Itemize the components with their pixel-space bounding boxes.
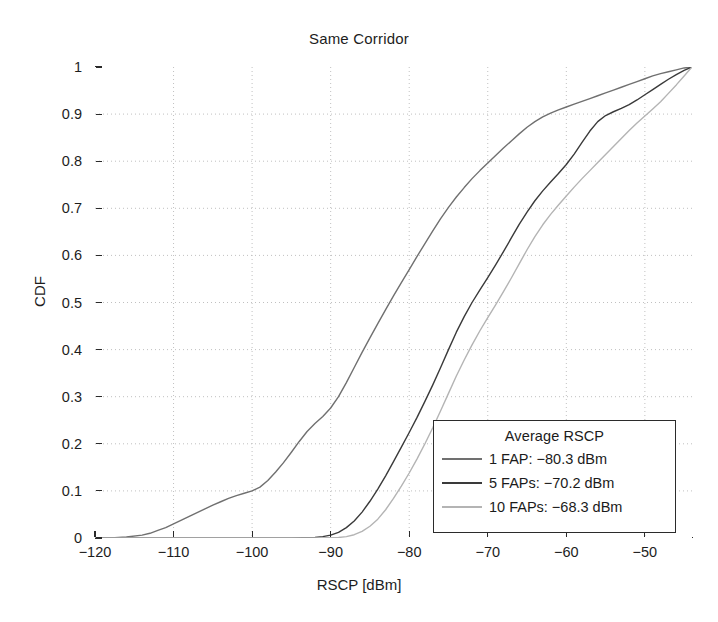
- x-tick-label: −100: [222, 544, 282, 560]
- legend-item: 1 FAP: −80.3 dBm: [434, 447, 675, 471]
- legend-line-icon: [442, 454, 482, 464]
- legend-line-icon: [442, 502, 482, 512]
- y-tick: [96, 349, 102, 350]
- y-tick: [96, 208, 102, 209]
- x-tick-label: −120: [65, 544, 125, 560]
- y-tick: [96, 302, 102, 303]
- legend-item-label: 1 FAP: −80.3 dBm: [482, 451, 607, 467]
- y-tick-label: 0.4: [36, 342, 82, 358]
- legend-item: 10 FAPs: −68.3 dBm: [434, 495, 675, 519]
- y-tick-label: 0.7: [36, 200, 82, 216]
- x-tick: [409, 531, 410, 537]
- y-tick-label: 0.8: [36, 153, 82, 169]
- x-tick: [252, 531, 253, 537]
- y-tick: [96, 255, 102, 256]
- x-tick-label: −70: [458, 544, 518, 560]
- y-tick: [96, 443, 102, 444]
- y-tick-label: 1: [36, 59, 82, 75]
- legend-entries: 1 FAP: −80.3 dBm5 FAPs: −70.2 dBm10 FAPs…: [434, 447, 675, 519]
- y-tick: [96, 114, 102, 115]
- y-tick-label: 0.3: [36, 389, 82, 405]
- chart-title: Same Corridor: [0, 30, 718, 47]
- y-axis-label: CDF: [31, 247, 48, 337]
- legend-line-icon: [442, 478, 482, 488]
- cdf-figure: Same Corridor 00.10.20.30.40.50.60.70.80…: [0, 0, 718, 622]
- y-tick: [96, 161, 102, 162]
- y-tick: [96, 66, 102, 67]
- x-tick-label: −80: [379, 544, 439, 560]
- y-tick: [96, 537, 102, 538]
- y-tick-label: 0.9: [36, 106, 82, 122]
- x-tick-label: −50: [615, 544, 675, 560]
- x-tick-label: −110: [144, 544, 204, 560]
- legend-item-label: 10 FAPs: −68.3 dBm: [482, 499, 622, 515]
- x-tick: [173, 531, 174, 537]
- y-tick-label: 0.2: [36, 436, 82, 452]
- x-tick: [94, 531, 95, 537]
- legend-title: Average RSCP: [434, 428, 675, 444]
- y-tick: [96, 396, 102, 397]
- x-tick: [330, 531, 331, 537]
- legend-item-label: 5 FAPs: −70.2 dBm: [482, 475, 614, 491]
- x-tick-label: −90: [301, 544, 361, 560]
- legend-box: Average RSCP 1 FAP: −80.3 dBm5 FAPs: −70…: [433, 420, 676, 533]
- x-tick-label: −60: [536, 544, 596, 560]
- y-tick: [96, 490, 102, 491]
- y-tick-label: 0.1: [36, 483, 82, 499]
- x-axis-label: RSCP [dBm]: [0, 576, 718, 593]
- legend-item: 5 FAPs: −70.2 dBm: [434, 471, 675, 495]
